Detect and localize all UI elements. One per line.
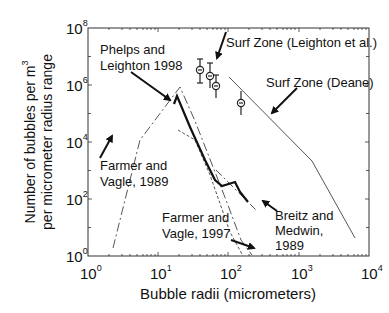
svg-text:per micrometer radius range: per micrometer radius range xyxy=(39,54,55,230)
data-point-marker xyxy=(237,91,244,115)
annotation-breitz-medwin: Breitz and Medwin, 1989 xyxy=(275,208,337,253)
x-tick-label: 104 xyxy=(361,263,383,282)
svg-text:Number of bubbles per m3: Number of bubbles per m3 xyxy=(20,61,38,224)
x-tick-label: 102 xyxy=(220,263,242,282)
y-axis-label: Number of bubbles per m3 per micrometer … xyxy=(20,54,55,230)
x-tick-label: 103 xyxy=(291,263,313,282)
series-surf-zone-leighton xyxy=(196,59,244,115)
annotation-farmer-vagle-1997: Farmer and Vagle, 1997 xyxy=(162,210,233,241)
annotation-farmer-vagle-1989: Farmer and Vagle, 1989 xyxy=(100,158,171,189)
series-phelps-leighton-1998 xyxy=(174,96,248,202)
y-tick-label: 108 xyxy=(66,18,88,37)
arrow-icon xyxy=(217,32,226,58)
arrow-icon xyxy=(100,136,112,158)
x-tick-labels: 100 101 102 103 104 xyxy=(80,263,383,282)
y-tick-label: 104 xyxy=(66,132,88,151)
annotation-surf-zone-leighton: Surf Zone (Leighton et al.) xyxy=(226,35,377,50)
x-tick-label: 100 xyxy=(80,263,102,282)
x-tick-label: 101 xyxy=(150,263,172,282)
y-tick-label: 102 xyxy=(66,189,88,208)
arrow-icon xyxy=(131,72,170,100)
y-tick-label: 106 xyxy=(66,75,88,94)
y-tick-label: 100 xyxy=(66,246,88,265)
y-tick-labels: 100 102 104 106 108 xyxy=(66,18,88,265)
bubble-population-chart: 100 102 104 106 108 100 101 102 103 104 … xyxy=(0,0,389,313)
annotation-surf-zone-deane: Surf Zone (Deane) xyxy=(266,75,374,90)
series-breitz-medwin-1989 xyxy=(216,170,256,210)
annotations: Phelps and Leighton 1998 Surf Zone (Leig… xyxy=(100,35,377,253)
annotation-phelps-leighton: Phelps and Leighton 1998 xyxy=(100,42,182,73)
data-point-marker xyxy=(196,59,203,83)
data-point-marker xyxy=(212,75,219,98)
x-axis-label: Bubble radii (micrometers) xyxy=(140,285,316,302)
arrow-icon xyxy=(272,88,297,113)
